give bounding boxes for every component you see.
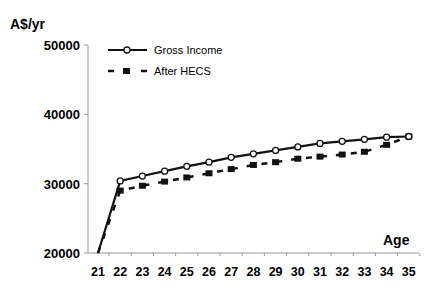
data-point-hecs [339, 152, 346, 158]
x-tick-label: 21 [91, 265, 105, 279]
x-tick-label: 30 [291, 265, 305, 279]
x-tick-label: 28 [246, 265, 260, 279]
data-point-gross [117, 178, 123, 184]
data-point-hecs [250, 162, 257, 168]
data-point-gross [384, 134, 390, 140]
x-tick-label: 22 [113, 265, 127, 279]
data-point-gross [406, 134, 412, 140]
x-tick-label: 23 [135, 265, 149, 279]
data-point-gross [206, 159, 212, 165]
data-point-hecs [161, 179, 168, 185]
x-tick-label: 29 [269, 265, 283, 279]
data-point-gross [295, 144, 301, 150]
data-point-gross [139, 173, 145, 179]
x-axis: 212223242526272829303132333435 [88, 253, 420, 279]
data-point-hecs [272, 159, 279, 165]
x-tick-label: 34 [380, 265, 394, 279]
data-point-hecs [294, 156, 301, 162]
data-point-gross [339, 138, 345, 144]
legend-item-after-hecs: After HECS [108, 65, 211, 77]
data-point-gross [317, 140, 323, 146]
x-tick-label: 31 [313, 265, 327, 279]
y-tick-label: 40000 [44, 107, 80, 122]
legend-item-gross-income: Gross Income [108, 44, 222, 56]
data-point-gross [273, 147, 279, 153]
data-point-gross [361, 136, 367, 142]
data-point-gross [162, 168, 168, 174]
income-chart: A$/yr Age 20000300004000050000 212223242… [0, 0, 441, 297]
y-tick-label: 50000 [44, 38, 80, 53]
data-point-gross [250, 151, 256, 157]
x-tick-label: 33 [357, 265, 371, 279]
y-axis: 20000300004000050000 [44, 38, 88, 261]
data-point-hecs [139, 183, 146, 189]
data-point-gross [228, 154, 234, 160]
open-circle-marker-icon [124, 47, 130, 53]
data-point-gross [184, 163, 190, 169]
legend-label-gross-income: Gross Income [154, 44, 222, 56]
x-tick-label: 24 [158, 265, 172, 279]
y-axis-title: A$/yr [10, 16, 46, 32]
filled-square-marker-icon [123, 68, 130, 74]
data-point-hecs [183, 174, 190, 180]
x-tick-label: 25 [180, 265, 194, 279]
x-tick-label: 26 [202, 265, 216, 279]
legend: Gross Income After HECS [108, 44, 222, 77]
x-tick-label: 35 [402, 265, 416, 279]
data-point-hecs [228, 166, 235, 172]
x-tick-label: 27 [224, 265, 238, 279]
data-point-hecs [383, 142, 390, 148]
data-point-hecs [206, 170, 213, 176]
data-point-hecs [317, 154, 324, 160]
data-point-hecs [361, 149, 368, 155]
y-tick-label: 30000 [44, 177, 80, 192]
x-tick-label: 32 [335, 265, 349, 279]
legend-label-after-hecs: After HECS [154, 65, 211, 77]
y-tick-label: 20000 [44, 246, 80, 261]
x-axis-title: Age [383, 232, 410, 248]
